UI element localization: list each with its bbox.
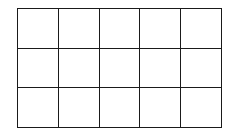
grid-cell [18,9,59,49]
diagram-canvas [0,0,234,131]
grid-cell [100,88,141,128]
grid-table [17,8,222,128]
grid-cell [18,49,59,89]
grid-cell [140,88,181,128]
grid-cell [181,9,222,49]
grid-cell [100,49,141,89]
grid-cell [59,9,100,49]
grid-cell [181,88,222,128]
grid-cell [59,88,100,128]
grid-cell [181,49,222,89]
grid-cell [59,49,100,89]
grid-cell [140,9,181,49]
grid-cell [140,49,181,89]
grid-cell [100,9,141,49]
grid-cell [18,88,59,128]
